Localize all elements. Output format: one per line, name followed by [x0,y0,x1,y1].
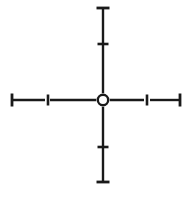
crosshair-reticle-figure [0,0,194,197]
reticle-diagram [0,0,194,197]
center-aiming-circle [98,95,108,105]
